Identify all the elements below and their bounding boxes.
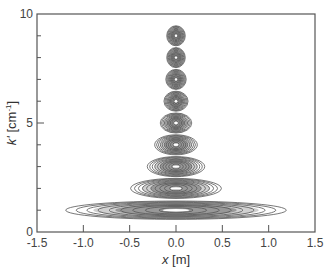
- contour-peak-k1: [66, 201, 287, 219]
- x-tick-label: -0.5: [119, 236, 140, 250]
- contour-peak-k2: [131, 178, 222, 198]
- x-tick-label: 1.5: [307, 236, 324, 250]
- x-tick-label: 0.5: [214, 236, 231, 250]
- y-axis-title: k' [cm-1]: [4, 101, 19, 145]
- x-axis-title: x [m]: [161, 252, 190, 267]
- contour-peak-k4: [155, 135, 198, 155]
- x-tick-label: 0.0: [168, 236, 185, 250]
- contour-peak-k5: [160, 113, 192, 133]
- contour-peak-k3: [147, 157, 204, 177]
- contour-chart: -1.5-1.0-0.50.00.51.01.5 0510 x [m] k' […: [0, 0, 336, 274]
- y-tick-label: 0: [26, 225, 33, 239]
- contour-peak-k8: [167, 48, 186, 68]
- x-axis-ticks: -1.5-1.0-0.50.00.51.01.5: [27, 225, 324, 250]
- contour-peak-k9: [167, 26, 186, 46]
- y-tick-label: 5: [26, 116, 33, 130]
- contour-lines: [66, 26, 287, 220]
- contour-peak-k6: [164, 91, 188, 111]
- x-tick-label: 1.0: [260, 236, 277, 250]
- contour-peak-k7: [166, 69, 186, 89]
- y-tick-label: 10: [20, 7, 34, 21]
- x-tick-label: -1.0: [73, 236, 94, 250]
- y-axis-ticks: 0510: [20, 7, 44, 239]
